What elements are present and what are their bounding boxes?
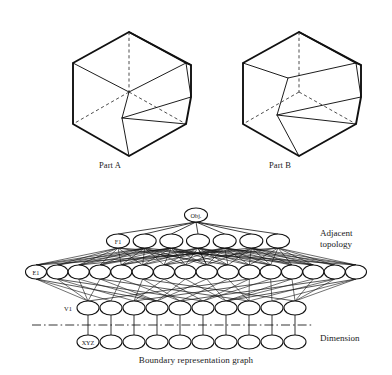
graph-node [132, 265, 153, 279]
graph-edge [36, 279, 157, 301]
graph-node [146, 335, 168, 349]
graph-node [282, 265, 303, 279]
graph-node [238, 335, 260, 349]
graph-node-label: E1 [33, 269, 40, 276]
graph-node [215, 301, 237, 315]
graph-edge [249, 248, 251, 265]
graph-node [239, 265, 260, 279]
graph-edge [143, 279, 295, 301]
graph-node [218, 265, 239, 279]
graph-node [169, 335, 191, 349]
graph-node [324, 265, 345, 279]
graph-node [175, 265, 196, 279]
graph-row-label: V1 [64, 305, 72, 312]
graph-node [284, 335, 306, 349]
boundary-representation-graph: Obj.F1E1V1XYZ [0, 0, 392, 375]
graph-node [261, 301, 283, 315]
figure-root: Part A Part B Obj.F1E1V1XYZ Adjacent top… [0, 0, 392, 375]
graph-edge [145, 222, 196, 234]
graph-edge [196, 222, 278, 234]
graph-node [123, 301, 145, 315]
graph-node [111, 265, 132, 279]
graph-node-group: Obj.F1E1V1XYZ [26, 208, 367, 349]
graph-edge [196, 222, 198, 234]
graph-edge [118, 248, 121, 265]
graph-node [192, 335, 214, 349]
graph-node [100, 335, 122, 349]
graph-caption: Boundary representation graph [96, 355, 296, 365]
graph-edge [196, 222, 251, 234]
graph-node [68, 265, 89, 279]
dimension-annotation: Dimension [320, 333, 360, 344]
graph-node [260, 265, 281, 279]
graph-edge [272, 279, 356, 301]
graph-node [160, 234, 183, 248]
graph-node [47, 265, 68, 279]
adjacent-topology-annotation: Adjacent topology [320, 228, 352, 250]
graph-edge [79, 279, 157, 301]
graph-node [238, 301, 260, 315]
graph-node-label: Obj. [191, 212, 202, 219]
graph-node [187, 234, 210, 248]
graph-node [346, 265, 367, 279]
graph-node [169, 301, 191, 315]
graph-node [77, 301, 99, 315]
graph-node [215, 335, 237, 349]
graph-node [90, 265, 111, 279]
graph-edge [143, 248, 145, 265]
graph-node [123, 335, 145, 349]
graph-node [196, 265, 217, 279]
graph-node [100, 301, 122, 315]
graph-node [261, 335, 283, 349]
adjacent-topology-line1: Adjacent [320, 228, 352, 239]
graph-node-label: F1 [115, 238, 122, 245]
graph-edge [226, 279, 356, 301]
graph-node [192, 301, 214, 315]
graph-node-label: XYZ [82, 339, 95, 346]
graph-node [133, 234, 156, 248]
graph-edge [36, 279, 111, 301]
graph-node [213, 234, 236, 248]
graph-node [240, 234, 263, 248]
graph-node [146, 301, 168, 315]
graph-node [154, 265, 175, 279]
graph-node [267, 234, 290, 248]
graph-node [284, 301, 306, 315]
adjacent-topology-line2: topology [320, 239, 352, 250]
graph-edge [180, 279, 335, 301]
graph-node [303, 265, 324, 279]
